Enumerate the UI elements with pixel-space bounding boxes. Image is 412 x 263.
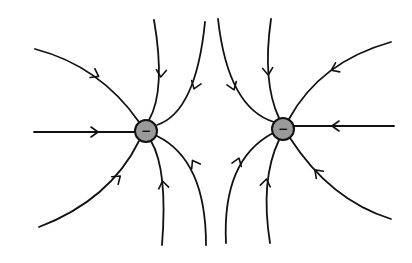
negative-sign-icon: − [141, 124, 151, 138]
electric-field-diagram: −− [0, 0, 412, 263]
charge-right: − [272, 118, 294, 140]
charge-left: − [135, 120, 157, 142]
negative-sign-icon: − [278, 122, 288, 136]
